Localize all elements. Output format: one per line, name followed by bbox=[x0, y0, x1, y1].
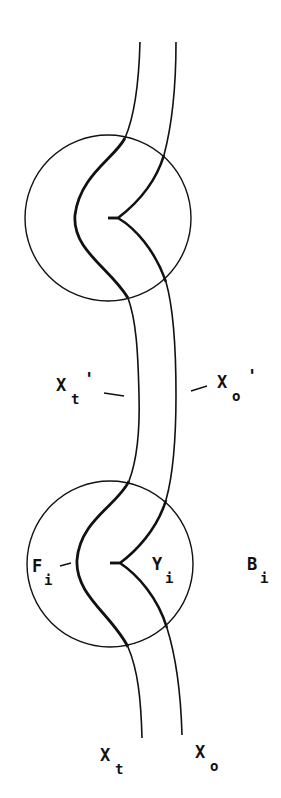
xt-prime-leader bbox=[104, 393, 124, 396]
svg-text:B: B bbox=[247, 554, 257, 574]
svg-text:X: X bbox=[195, 742, 206, 762]
svg-text:o: o bbox=[232, 388, 240, 404]
svg-text:i: i bbox=[260, 570, 268, 586]
svg-text:i: i bbox=[165, 570, 173, 586]
strand-xt-middle bbox=[128, 298, 139, 481]
strand-xo-upper-cusp-bottom bbox=[108, 218, 166, 282]
svg-text:o: o bbox=[210, 758, 218, 774]
label-yi: Y i bbox=[152, 554, 173, 586]
label-fi: F i bbox=[32, 556, 52, 588]
label-xt-prime: X t ' bbox=[56, 369, 94, 407]
label-bi: B i bbox=[247, 554, 268, 586]
svg-text:': ' bbox=[247, 366, 257, 386]
strand-xo-bottom bbox=[167, 628, 182, 735]
fi-leader bbox=[60, 563, 71, 566]
svg-text:X: X bbox=[217, 372, 228, 392]
svg-text:t: t bbox=[71, 391, 79, 407]
strand-xo-middle bbox=[166, 282, 176, 500]
svg-text:t: t bbox=[115, 761, 123, 777]
svg-text:X: X bbox=[100, 745, 111, 765]
strand-xt-upper bbox=[125, 42, 140, 138]
label-xo: X o bbox=[195, 742, 218, 774]
svg-text:Y: Y bbox=[152, 554, 163, 574]
svg-text:': ' bbox=[84, 369, 94, 389]
svg-text:F: F bbox=[32, 556, 42, 576]
strand-xt-bottom bbox=[128, 647, 142, 738]
knot-diagram: X t ' X o ' F i Y i B i X t X o bbox=[0, 0, 281, 798]
svg-text:X: X bbox=[56, 375, 67, 395]
xo-prime-leader bbox=[191, 386, 207, 391]
label-xt: X t bbox=[100, 745, 123, 777]
svg-text:i: i bbox=[44, 572, 52, 588]
strand-xo-top bbox=[164, 42, 176, 155]
strand-xo-upper-cusp-top bbox=[108, 155, 164, 218]
label-xo-prime: X o ' bbox=[217, 366, 257, 404]
